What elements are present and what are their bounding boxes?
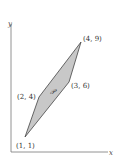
x-axis-label: x (109, 149, 113, 157)
vertex-label-3-6: (3, 6) (71, 82, 90, 90)
parallelogram-diagram: y x 𝒫 (4, 9) (3, 6) (2, 4) (1, 1) (0, 0, 118, 165)
vertex-label-2-4: (2, 4) (17, 93, 36, 101)
vertex-label-1-1: (1, 1) (16, 142, 35, 150)
vertex-label-4-9: (4, 9) (83, 35, 102, 43)
y-axis-label: y (7, 20, 13, 28)
